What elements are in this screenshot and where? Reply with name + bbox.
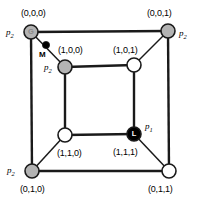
vertex-coordinate-label: (0,0,0): [21, 9, 46, 18]
cube-vertex-node[interactable]: [25, 164, 39, 178]
cube-edge: [65, 134, 134, 135]
cube-edge: [31, 31, 168, 32]
vertex-coordinate-label: (1,1,0): [57, 149, 82, 158]
process-label: p2: [179, 29, 187, 40]
marker-label: M: [39, 51, 46, 59]
process-label-subscript: 2: [49, 67, 52, 74]
cube-vertex-node[interactable]: [127, 58, 141, 72]
vertex-coordinate-label: (0,0,1): [147, 9, 172, 18]
vertex-coordinate-label: (1,0,1): [113, 46, 138, 55]
cube-vertex-node[interactable]: [24, 25, 38, 39]
cube-graph-figure: (0,0,0)p2G(0,0,1)p2(1,0,0)p2(1,0,1)(1,1,…: [0, 0, 199, 202]
cube-vertex-node[interactable]: [127, 127, 141, 141]
process-label-subscript: 1: [150, 126, 153, 133]
process-label: p2: [7, 166, 15, 177]
marker-layer: [42, 41, 49, 48]
vertex-coordinate-label: (0,1,1): [148, 185, 173, 194]
process-label: p2: [44, 63, 52, 74]
position-marker-dot[interactable]: [42, 41, 49, 48]
cube-edge: [31, 32, 32, 171]
cube-graph-canvas: [0, 0, 199, 202]
process-label: p2: [6, 28, 14, 39]
vertex-coordinate-label: (1,0,0): [58, 46, 83, 55]
vertex-coordinate-label: (0,1,0): [20, 185, 45, 194]
cube-vertex-node[interactable]: [58, 128, 72, 142]
cube-vertex-node[interactable]: [58, 60, 72, 74]
process-label-subscript: 2: [11, 32, 14, 39]
cube-vertex-node[interactable]: [161, 24, 175, 38]
process-label: p1: [145, 122, 153, 133]
cube-vertex-node[interactable]: [162, 164, 176, 178]
vertex-coordinate-label: (1,1,1): [113, 148, 138, 157]
process-label-subscript: 2: [184, 33, 187, 40]
process-label-subscript: 2: [12, 170, 15, 177]
edge-layer: [31, 31, 169, 171]
cube-edge: [168, 31, 169, 171]
cube-edge: [65, 65, 134, 67]
